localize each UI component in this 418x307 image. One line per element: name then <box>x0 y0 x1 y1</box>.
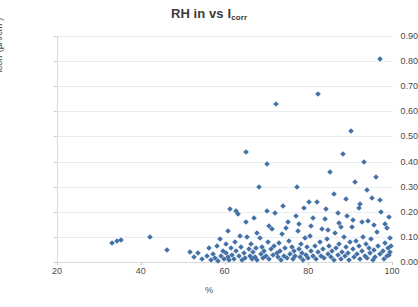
data-point <box>206 245 212 251</box>
data-point <box>343 196 349 202</box>
y-axis-tick-label: 0.30 <box>370 182 418 192</box>
data-point <box>280 203 286 209</box>
data-point <box>231 256 237 262</box>
data-point <box>315 91 321 97</box>
data-point <box>272 210 278 216</box>
data-point <box>285 219 291 225</box>
x-axis-tick-mark <box>308 262 309 265</box>
gridline-y <box>58 111 393 112</box>
data-point <box>317 239 323 245</box>
data-point <box>319 227 325 233</box>
plot-area <box>57 36 393 263</box>
data-point <box>238 244 244 250</box>
scatter-chart: RH in vs Icorr icorr (µA/cm²) % 0.000.10… <box>0 0 418 307</box>
data-point <box>352 179 358 185</box>
data-point <box>265 239 271 245</box>
x-axis-label: % <box>0 285 418 295</box>
data-point <box>369 195 375 201</box>
data-point <box>337 241 343 247</box>
data-point <box>356 205 362 211</box>
chart-title: RH in vs Icorr <box>0 6 418 22</box>
data-point <box>335 210 341 216</box>
gridline-y <box>58 36 393 37</box>
data-point <box>283 225 289 231</box>
gridline-y <box>58 162 393 163</box>
data-point <box>313 257 319 263</box>
data-point <box>346 257 352 263</box>
y-axis-tick-label: 0.20 <box>370 207 418 217</box>
data-point <box>311 215 317 221</box>
data-point <box>359 219 365 225</box>
data-point <box>244 234 250 240</box>
data-point <box>322 216 328 222</box>
y-axis-tick-mark <box>54 212 57 213</box>
data-point <box>360 234 366 240</box>
gridline-y <box>58 61 393 62</box>
data-point <box>332 230 338 236</box>
data-point <box>273 101 279 107</box>
y-axis-tick-label: 0.80 <box>370 56 418 66</box>
data-point <box>327 169 333 175</box>
data-point <box>306 199 312 205</box>
data-point <box>340 151 346 157</box>
data-point <box>147 234 153 240</box>
data-point <box>332 191 338 197</box>
gridline-y <box>58 86 393 87</box>
data-point <box>384 225 390 231</box>
x-axis-tick-mark <box>141 262 142 265</box>
y-axis-tick-label: 0.40 <box>370 157 418 167</box>
data-point <box>320 246 326 252</box>
data-point <box>267 257 273 263</box>
y-axis-tick-mark <box>54 136 57 137</box>
x-axis-tick-label: 20 <box>37 266 77 276</box>
data-point <box>338 225 344 231</box>
data-point <box>361 159 367 165</box>
y-axis-label: icorr (µA/cm²) <box>0 0 4 105</box>
data-point <box>276 240 282 246</box>
y-axis-tick-label: 0.90 <box>370 31 418 41</box>
data-point <box>344 213 350 219</box>
data-point <box>364 255 370 261</box>
x-axis-tick-mark <box>392 262 393 265</box>
data-point <box>164 247 170 253</box>
data-point <box>341 235 347 241</box>
data-point <box>350 217 356 223</box>
data-point <box>296 221 302 227</box>
x-axis-tick-label: 40 <box>121 266 161 276</box>
data-point <box>365 218 371 224</box>
data-point <box>324 237 330 243</box>
data-point <box>257 235 263 241</box>
data-point <box>283 245 289 251</box>
data-point <box>309 223 315 229</box>
data-point <box>225 228 231 234</box>
data-point <box>251 215 257 221</box>
y-axis-tick-label: 0.10 <box>370 232 418 242</box>
y-axis-tick-label: 0.70 <box>370 81 418 91</box>
chart-title-main: RH in vs I <box>171 6 231 21</box>
data-point <box>364 188 370 194</box>
data-point <box>195 250 201 256</box>
x-axis-tick-label: 60 <box>205 266 245 276</box>
y-axis-tick-mark <box>54 237 57 238</box>
y-axis-tick-label: 0.50 <box>370 131 418 141</box>
x-axis-tick-label: 100 <box>372 266 412 276</box>
data-point <box>373 174 379 180</box>
gridline-y <box>58 212 393 213</box>
chart-title-subscript: corr <box>231 13 247 22</box>
data-point <box>214 244 220 250</box>
y-axis-tick-mark <box>54 187 57 188</box>
gridline-y <box>58 187 393 188</box>
data-point <box>244 149 250 155</box>
data-point <box>217 237 223 243</box>
data-point <box>343 244 349 250</box>
data-point <box>376 243 382 249</box>
data-point <box>243 219 249 225</box>
data-point <box>187 249 193 255</box>
gridline-y <box>58 136 393 137</box>
data-point <box>286 238 292 244</box>
x-axis-tick-label: 80 <box>288 266 328 276</box>
data-point <box>377 198 383 204</box>
data-point <box>331 257 337 263</box>
data-point <box>191 255 197 261</box>
data-point <box>301 205 307 211</box>
